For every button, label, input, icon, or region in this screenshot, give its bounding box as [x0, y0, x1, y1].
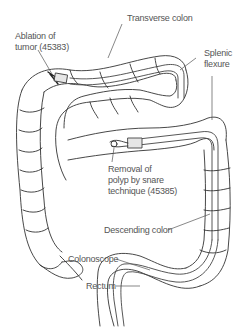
ascending-colon-outline: [17, 90, 63, 269]
label-colonoscope: Colonoscope: [68, 254, 118, 265]
leader-descending: [168, 214, 210, 230]
leader-removal: [112, 148, 114, 162]
label-descending-colon: Descending colon: [104, 225, 172, 236]
label-ablation-line1: Ablation of: [15, 31, 55, 42]
label-ablation-line2: tumor (45383): [15, 42, 69, 53]
transverse-colon-outline: [22, 56, 186, 90]
label-flexure: flexure: [204, 59, 230, 70]
label-removal-line2: polyp by snare: [108, 175, 164, 186]
label-removal-line3: technique (45385): [108, 186, 177, 197]
leader-transverse: [108, 24, 122, 58]
leader-colonoscope: [116, 259, 150, 270]
colonoscopy-diagram: Transverse colon Ablation of tumor (4538…: [0, 0, 240, 331]
label-rectum: Rectum: [86, 281, 116, 292]
label-splenic: Splenic: [204, 48, 232, 59]
label-removal-line1: Removal of: [108, 164, 152, 175]
leader-splenic: [180, 58, 196, 70]
label-transverse-colon: Transverse colon: [127, 13, 193, 24]
